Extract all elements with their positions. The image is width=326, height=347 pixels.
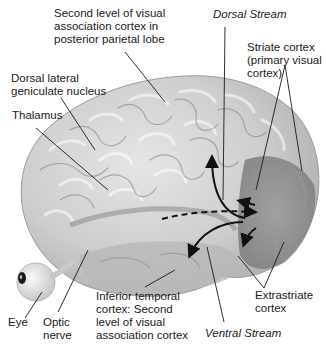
label-ventral-stream: Ventral Stream <box>205 327 281 340</box>
label-dorsal-lgn: Dorsal lateral geniculate nucleus <box>11 72 106 98</box>
label-dorsal-stream: Dorsal Stream <box>213 8 287 21</box>
label-inferior-temporal: Inferior temporal cortex: Second level o… <box>96 290 188 342</box>
eye-illustration <box>17 262 72 301</box>
label-thalamus: Thalamus <box>12 109 63 122</box>
label-optic-nerve: Optic nerve <box>43 316 72 342</box>
label-striate-cortex: Striate cortex (primary visual cortex) <box>247 41 322 80</box>
brain-hemisphere <box>21 76 319 297</box>
label-eye: Eye <box>8 316 28 329</box>
visual-pathways-diagram: Second level of visual association corte… <box>0 0 326 347</box>
label-second-level-parietal: Second level of visual association corte… <box>54 7 165 46</box>
label-extrastriate-cortex: Extrastriate cortex <box>255 289 313 315</box>
